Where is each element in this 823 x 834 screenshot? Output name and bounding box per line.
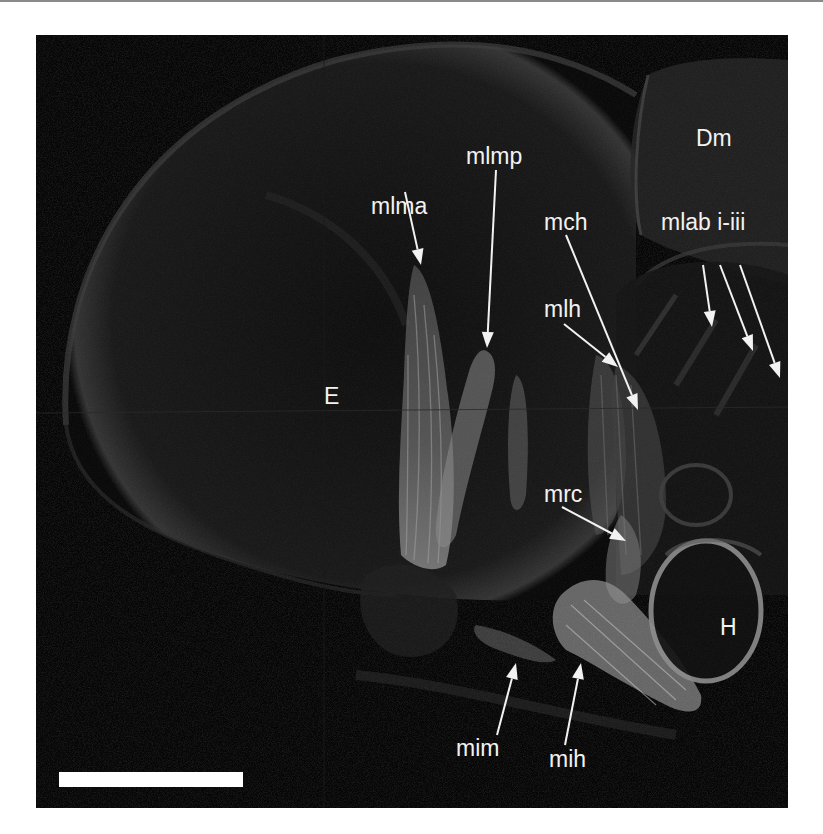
label-mih: mih xyxy=(549,748,586,771)
label-mlh: mlh xyxy=(544,298,581,321)
scale-bar xyxy=(59,772,243,787)
label-mlab-i-iii: mlab i-iii xyxy=(661,211,745,234)
label-dm: Dm xyxy=(696,127,732,150)
label-mlma: mlma xyxy=(371,195,427,218)
label-mim: mim xyxy=(456,737,499,760)
label-eye: E xyxy=(324,385,339,408)
top-border-line xyxy=(0,0,823,2)
specimen-section-image xyxy=(36,35,788,808)
label-h: H xyxy=(720,616,737,639)
specimen-image-panel: E Dm H mlma mlmp mch mlab i-iii mlh mrc … xyxy=(36,35,788,808)
label-mrc: mrc xyxy=(544,483,582,506)
label-mch: mch xyxy=(544,211,587,234)
label-mlmp: mlmp xyxy=(466,145,522,168)
